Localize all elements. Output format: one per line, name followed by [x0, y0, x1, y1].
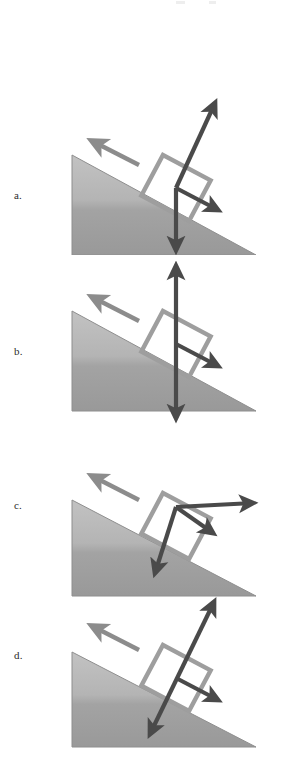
crop-artifact-right [209, 1, 216, 4]
horizontal-force-arrow [176, 503, 253, 507]
velocity-arrow [92, 141, 139, 165]
normal-force-arrow [176, 103, 215, 188]
incline-plane [72, 311, 256, 411]
panel-c-diagram [0, 428, 305, 603]
figure-page: a. [0, 0, 305, 772]
velocity-arrow [92, 626, 139, 650]
velocity-arrow [92, 476, 139, 500]
velocity-arrow [92, 297, 139, 321]
crop-artifact-left [176, 1, 185, 4]
panel-d: d. [0, 592, 305, 767]
panel-d-diagram [0, 592, 305, 767]
panel-c: c. [0, 428, 305, 603]
panel-a: a. [0, 80, 305, 255]
panel-b-diagram [0, 258, 305, 433]
incline-plane [72, 155, 256, 255]
panel-a-diagram [0, 80, 305, 255]
panel-b: b. [0, 258, 305, 433]
